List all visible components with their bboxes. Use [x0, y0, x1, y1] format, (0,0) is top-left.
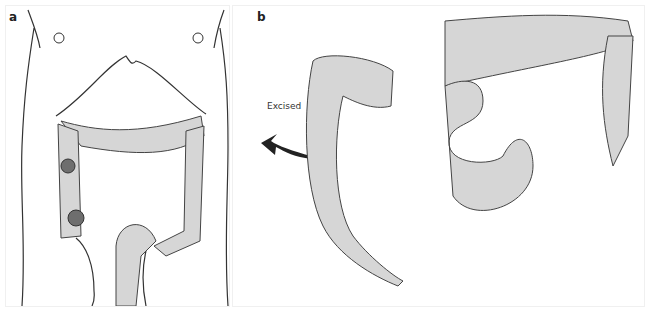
panel-a: a: [5, 5, 230, 307]
remaining-bowel: [445, 15, 633, 210]
colon-anatomy-illustration: [6, 6, 229, 306]
panel-b: b Excised: [232, 5, 645, 307]
excised-colon-segment: [306, 56, 403, 286]
arrow-left-icon: [261, 134, 311, 159]
resection-illustration: [233, 6, 644, 306]
nipple-icons: [54, 33, 203, 43]
